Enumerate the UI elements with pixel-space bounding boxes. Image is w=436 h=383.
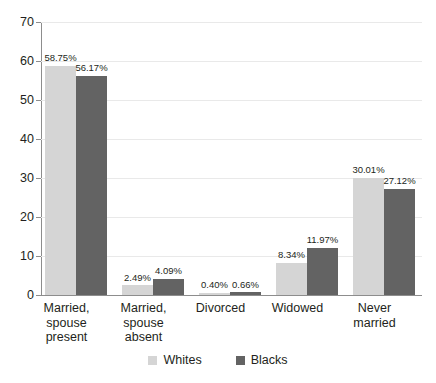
bar-whites[interactable] xyxy=(276,263,307,296)
grouped-bar-chart: 70 60 50 40 30 20 10 0 xyxy=(0,0,436,383)
bar-value-label-blacks: 56.17% xyxy=(67,63,116,73)
y-tick-60: 60 xyxy=(0,55,34,67)
legend-label: Blacks xyxy=(251,354,288,367)
bar-group: 0.40% 0.66% xyxy=(199,22,263,295)
y-tick-0: 0 xyxy=(0,289,34,301)
bar-whites[interactable] xyxy=(122,285,153,295)
legend: Whites Blacks xyxy=(0,354,436,367)
y-tick-label: 70 xyxy=(2,16,34,28)
y-tick-70: 70 xyxy=(0,16,34,28)
bar-group: 8.34% 11.97% xyxy=(276,22,340,295)
y-tick-label: 10 xyxy=(2,250,34,262)
plot-area: 58.75% 56.17% 2.49% 4.09% 0.40% 0.66% 8.… xyxy=(41,22,422,295)
y-tick-label: 60 xyxy=(2,55,34,67)
y-tick-20: 20 xyxy=(0,211,34,223)
x-category-line: absent xyxy=(92,330,195,345)
bar-value-label-blacks: 11.97% xyxy=(298,235,347,245)
legend-item-whites[interactable]: Whites xyxy=(148,354,201,367)
bar-value-label-whites: 30.01% xyxy=(344,165,393,175)
legend-item-blacks[interactable]: Blacks xyxy=(236,354,288,367)
y-tick-label: 40 xyxy=(2,133,34,145)
bar-blacks[interactable] xyxy=(384,189,415,295)
bar-value-label-whites: 8.34% xyxy=(267,250,316,260)
y-tick-label: 0 xyxy=(2,289,34,301)
y-tick-label: 30 xyxy=(2,172,34,184)
bar-group: 58.75% 56.17% xyxy=(45,22,109,295)
y-tick-10: 10 xyxy=(0,250,34,262)
y-tick-40: 40 xyxy=(0,133,34,145)
x-category-label-never-married: Never married xyxy=(323,301,426,330)
bar-value-label-blacks: 27.12% xyxy=(375,176,424,186)
legend-label: Whites xyxy=(163,354,201,367)
y-tick-30: 30 xyxy=(0,172,34,184)
bar-blacks[interactable] xyxy=(76,76,107,295)
bar-whites[interactable] xyxy=(45,66,76,295)
bar-whites[interactable] xyxy=(353,178,384,295)
bar-value-label-blacks: 4.09% xyxy=(144,266,193,276)
x-category-line: Never xyxy=(323,301,426,316)
y-tick-50: 50 xyxy=(0,94,34,106)
legend-swatch-icon xyxy=(148,356,157,365)
y-tick-label: 20 xyxy=(2,211,34,223)
y-tick-label: 50 xyxy=(2,94,34,106)
x-category-line: married xyxy=(323,316,426,331)
bar-group: 30.01% 27.12% xyxy=(353,22,417,295)
legend-swatch-icon xyxy=(236,356,245,365)
x-category-line: spouse xyxy=(92,316,195,331)
x-axis-line xyxy=(41,295,422,296)
bar-group: 2.49% 4.09% xyxy=(122,22,186,295)
bar-blacks[interactable] xyxy=(230,292,261,295)
bar-value-label-blacks: 0.66% xyxy=(221,280,270,290)
bar-whites[interactable] xyxy=(199,293,230,295)
